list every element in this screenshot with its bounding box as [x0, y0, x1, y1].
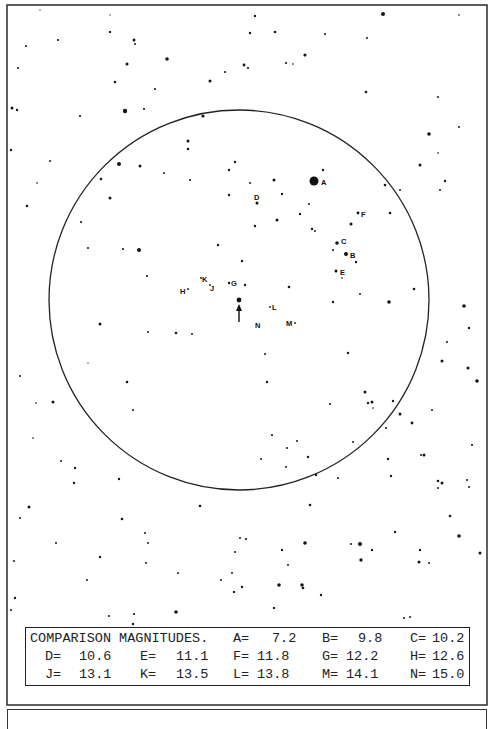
- field-star: [471, 444, 473, 446]
- star-label: A: [321, 178, 327, 187]
- field-star: [36, 182, 38, 184]
- field-star: [122, 248, 124, 250]
- star-dot: [269, 306, 271, 308]
- field-star: [286, 447, 288, 449]
- comparison-star-h: H: [180, 287, 189, 296]
- field-star: [266, 381, 268, 383]
- field-star: [468, 327, 470, 329]
- field-star: [187, 148, 190, 151]
- field-star: [387, 458, 389, 460]
- comparison-star-l: L: [269, 303, 277, 312]
- field-star: [74, 467, 76, 469]
- field-star: [444, 180, 446, 182]
- field-star: [350, 543, 352, 545]
- comparison-star-e: E: [335, 268, 346, 277]
- star-label: E: [340, 268, 345, 277]
- field-star: [287, 564, 289, 566]
- field-star: [359, 293, 361, 295]
- field-star: [347, 352, 349, 354]
- field-star: [355, 261, 357, 263]
- field-star: [87, 362, 89, 364]
- field-star: [199, 505, 202, 508]
- comparison-star-j: J: [209, 284, 214, 293]
- field-star: [418, 561, 421, 564]
- field-star: [145, 562, 147, 564]
- field-star: [57, 39, 59, 41]
- field-star: [28, 506, 31, 509]
- legend-label-j: J=: [45, 666, 61, 684]
- field-star: [109, 197, 112, 200]
- star-label: N: [255, 321, 260, 330]
- legend-label-g: G=: [322, 648, 338, 666]
- field-star: [19, 375, 21, 377]
- field-star: [329, 403, 331, 405]
- field-star: [276, 219, 279, 222]
- field-star: [99, 556, 101, 558]
- field-star: [133, 39, 136, 42]
- legend-value-d: 10.6: [79, 648, 111, 666]
- field-star: [217, 244, 219, 246]
- field-star: [201, 114, 204, 117]
- field-star: [462, 304, 466, 308]
- field-star: [241, 586, 243, 588]
- field-star: [467, 367, 470, 370]
- comparison-star-c: C: [335, 237, 347, 246]
- field-star: [16, 109, 18, 111]
- field-star: [458, 14, 460, 16]
- field-star: [132, 409, 134, 411]
- field-star: [147, 542, 149, 544]
- field-star: [175, 332, 178, 335]
- field-star: [367, 402, 369, 404]
- field-star: [39, 9, 41, 11]
- field-star: [413, 288, 416, 291]
- field-star: [419, 164, 422, 167]
- field-star: [108, 615, 110, 617]
- field-star: [320, 594, 322, 596]
- legend-value-h: 12.6: [432, 648, 464, 666]
- field-star: [121, 518, 124, 521]
- field-star: [233, 591, 235, 593]
- field-star: [300, 583, 304, 587]
- comparison-star-a: A: [310, 177, 328, 188]
- field-star: [277, 583, 281, 587]
- comparison-star-k: K: [200, 275, 208, 284]
- field-star: [228, 169, 230, 171]
- field-star: [163, 172, 165, 174]
- star-dot: [335, 270, 338, 273]
- field-star: [332, 249, 334, 251]
- legend-value-g: 12.2: [346, 648, 378, 666]
- legend-label-h: H=: [410, 648, 426, 666]
- field-star: [133, 613, 135, 615]
- next-chart-frame: [7, 709, 487, 729]
- field-star: [441, 482, 444, 485]
- field-star: [296, 440, 298, 442]
- legend-label-c: C=: [410, 630, 426, 648]
- field-star: [332, 301, 334, 303]
- field-star: [52, 401, 55, 404]
- field-star: [123, 109, 127, 113]
- field-star: [381, 12, 385, 16]
- field-star: [384, 184, 387, 187]
- field-star: [245, 538, 247, 540]
- field-star: [309, 504, 312, 507]
- comparison-magnitudes-legend: COMPARISON MAGNITUDES. A= 7.2 B= 9.8 C= …: [25, 627, 470, 686]
- field-star: [341, 277, 343, 279]
- legend-title: COMPARISON MAGNITUDES.: [30, 630, 208, 648]
- comparison-star-n: N: [255, 321, 260, 330]
- legend-value-f: 11.8: [257, 648, 289, 666]
- field-star: [423, 454, 426, 457]
- field-star: [35, 402, 37, 404]
- legend-value-c: 10.2: [432, 630, 464, 648]
- field-star: [187, 140, 190, 143]
- field-star: [174, 610, 178, 614]
- field-star: [403, 617, 405, 619]
- comparison-star-d: D: [254, 193, 260, 205]
- field-star: [387, 300, 391, 304]
- field-star: [366, 37, 368, 39]
- star-dot: [357, 212, 360, 215]
- field-star: [302, 587, 305, 590]
- target-star: [237, 298, 242, 303]
- legend-label-n: N=: [410, 666, 426, 684]
- field-star: [311, 228, 313, 230]
- field-star: [247, 67, 249, 69]
